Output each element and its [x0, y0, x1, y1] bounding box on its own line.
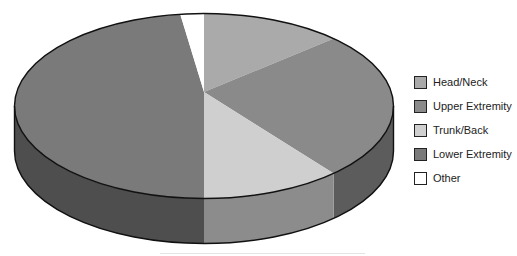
legend-label: Other — [433, 172, 461, 184]
legend-label: Trunk/Back — [433, 124, 488, 136]
legend-swatch — [414, 148, 427, 161]
legend-item-upper-extremity: Upper Extremity — [414, 94, 512, 118]
legend-swatch — [414, 100, 427, 113]
legend-swatch — [414, 76, 427, 89]
legend-label: Lower Extremity — [433, 148, 512, 160]
scan-line-artifact — [160, 253, 365, 254]
legend-item-other: Other — [414, 166, 512, 190]
legend-label: Upper Extremity — [433, 100, 512, 112]
pie-chart — [0, 0, 410, 256]
legend-item-head-neck: Head/Neck — [414, 70, 512, 94]
pie-top — [14, 14, 393, 199]
legend-item-lower-extremity: Lower Extremity — [414, 142, 512, 166]
legend-swatch — [414, 124, 427, 137]
legend-item-trunk-back: Trunk/Back — [414, 118, 512, 142]
legend-label: Head/Neck — [433, 76, 487, 88]
legend: Head/Neck Upper Extremity Trunk/Back Low… — [414, 70, 512, 190]
legend-swatch — [414, 172, 427, 185]
